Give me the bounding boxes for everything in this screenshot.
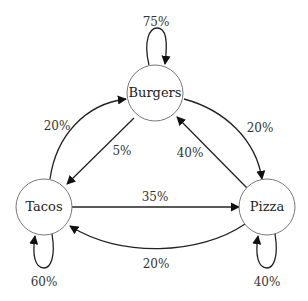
node-tacos: Tacos: [16, 179, 72, 235]
node-label-pizza: Pizza: [250, 199, 285, 214]
markov-chain-diagram: 75% 20% 5% 60% 20% 35% 40% 40% 20% Burge…: [0, 0, 308, 301]
edge-label-pizza-burgers: 40%: [177, 146, 204, 160]
edge-label-pizza-tacos: 20%: [143, 257, 170, 271]
edge-label-tacos-burgers: 20%: [44, 119, 71, 133]
edge-label-burgers-burgers: 75%: [143, 15, 170, 29]
node-label-burgers: Burgers: [128, 85, 181, 100]
node-pizza: Pizza: [239, 179, 295, 235]
edge-label-burgers-pizza: 20%: [247, 121, 274, 135]
node-label-tacos: Tacos: [25, 199, 62, 214]
edge-label-burgers-tacos: 5%: [112, 144, 131, 158]
edge-pizza-tacos: [70, 224, 245, 249]
edge-burgers-pizza: [184, 99, 262, 179]
edge-label-tacos-pizza: 35%: [142, 190, 169, 204]
edge-label-tacos-tacos: 60%: [31, 275, 58, 289]
edge-tacos-tacos: [34, 234, 53, 268]
edge-tacos-burgers: [50, 99, 126, 179]
node-burgers: Burgers: [127, 65, 183, 121]
edge-burgers-burgers: [147, 28, 167, 65]
edge-pizza-pizza: [257, 234, 276, 268]
edge-label-pizza-pizza: 40%: [254, 275, 281, 289]
